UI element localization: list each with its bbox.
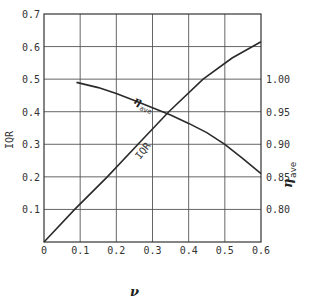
x-axis-ticks: 00.10.20.30.40.50.6	[41, 245, 270, 256]
y-axis-ticks: 0.10.20.30.40.50.60.7	[22, 9, 40, 215]
x-tick-label: 0.5	[216, 245, 234, 256]
iqr-curve-label: IQR	[133, 139, 153, 161]
y-tick-label: 0.3	[22, 139, 40, 150]
svg-text:ave: ave	[138, 104, 153, 116]
y-tick-label: 0.1	[22, 204, 40, 215]
svg-text:η: η	[280, 179, 295, 188]
y2-tick-label: 0.95	[266, 107, 290, 118]
x-tick-label: 0	[41, 245, 47, 256]
x-tick-label: 0.3	[143, 245, 161, 256]
x-tick-label: 0.4	[180, 245, 198, 256]
eta-series-line	[77, 82, 262, 173]
y-tick-label: 0.5	[22, 74, 40, 85]
y2-tick-label: 0.80	[266, 204, 290, 215]
chart: 00.10.20.30.40.50.6 0.10.20.30.40.50.60.…	[0, 0, 311, 308]
y-tick-label: 0.2	[22, 172, 40, 183]
y2-axis-ticks: 0.800.850.900.951.00	[266, 74, 290, 215]
x-tick-label: 0.1	[71, 245, 89, 256]
y-tick-label: 0.4	[22, 107, 40, 118]
x-axis-title: ν	[130, 284, 139, 299]
x-tick-label: 0.6	[252, 245, 270, 256]
y2-tick-label: 1.00	[266, 74, 290, 85]
y-tick-label: 0.7	[22, 9, 40, 20]
y2-tick-label: 0.90	[266, 139, 290, 150]
y-tick-label: 0.6	[22, 42, 40, 53]
y-axis-title: IQR	[4, 130, 15, 149]
svg-text:ave: ave	[288, 162, 298, 178]
x-tick-label: 0.2	[107, 245, 125, 256]
